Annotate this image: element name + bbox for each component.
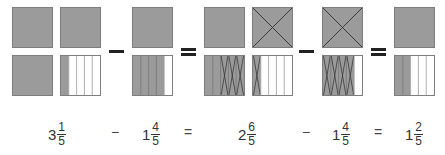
equation-minus-2: − xyxy=(302,124,310,140)
empty-fifth xyxy=(164,56,172,95)
equals-operator-1 xyxy=(181,48,196,56)
denominator: 5 xyxy=(248,135,255,147)
g1-fifths-square xyxy=(60,55,101,96)
whole-part: 1 xyxy=(405,126,413,143)
fraction: 4 5 xyxy=(341,122,350,147)
empty-fifth xyxy=(269,56,277,95)
mixed-number-3: 2 6 5 xyxy=(238,121,256,147)
cross-out-icon xyxy=(253,8,292,47)
g1-whole-square-3 xyxy=(12,55,53,96)
empty-fifth xyxy=(284,56,292,95)
g3-crossed-whole-square xyxy=(252,7,293,48)
fifths-strips xyxy=(395,56,434,95)
g1-whole-square-2 xyxy=(60,7,101,48)
numerator: 2 xyxy=(414,122,423,135)
g4-crossed-whole-square xyxy=(322,7,363,48)
fraction: 6 5 xyxy=(247,122,256,147)
g3-whole-square xyxy=(204,7,245,48)
shaded-fifth xyxy=(156,56,164,95)
empty-fifth xyxy=(77,56,85,95)
fraction: 1 5 xyxy=(57,122,66,147)
g5-whole-square xyxy=(394,7,435,48)
equation-equals-2: = xyxy=(374,124,382,140)
empty-fifth xyxy=(92,56,100,95)
fraction: 4 5 xyxy=(151,122,160,147)
shaded-fifth xyxy=(133,56,141,95)
shaded-fifth xyxy=(141,56,149,95)
denominator: 5 xyxy=(415,135,422,147)
mixed-number-5: 1 2 5 xyxy=(405,121,423,147)
g3-fifths-square-2 xyxy=(252,55,293,96)
g1-whole-square-1 xyxy=(12,7,53,48)
fifths-strips xyxy=(323,56,362,95)
empty-fifth xyxy=(69,56,77,95)
cross-out-icon xyxy=(323,8,362,47)
numerator: 6 xyxy=(247,122,256,135)
mixed-number-1: 3 1 5 xyxy=(48,121,66,147)
g2-whole-square xyxy=(132,7,173,48)
mixed-number-2: 1 4 5 xyxy=(142,121,160,147)
numerator: 4 xyxy=(341,122,350,135)
mixed-number-4: 1 4 5 xyxy=(332,121,350,147)
empty-fifth xyxy=(354,56,362,95)
g3-fifths-square-1 xyxy=(204,55,245,96)
denominator: 5 xyxy=(58,135,65,147)
numerator: 1 xyxy=(57,122,66,135)
fifths-strips xyxy=(253,56,292,95)
fifths-strips xyxy=(61,56,100,95)
shaded-fifth xyxy=(61,56,69,95)
empty-fifth xyxy=(411,56,419,95)
minus-operator-2 xyxy=(299,50,314,53)
fraction: 2 5 xyxy=(414,122,423,147)
empty-fifth xyxy=(261,56,269,95)
fifths-strips xyxy=(133,56,172,95)
whole-part: 1 xyxy=(332,126,340,143)
empty-fifth xyxy=(426,56,434,95)
denominator: 5 xyxy=(152,135,159,147)
shaded-fifth xyxy=(395,56,403,95)
equation-minus-1: − xyxy=(111,124,119,140)
g5-fifths-square xyxy=(394,55,435,96)
equation-equals-1: = xyxy=(184,124,192,140)
fifths-strips xyxy=(205,56,244,95)
numerator: 4 xyxy=(151,122,160,135)
equals-operator-2 xyxy=(371,48,386,56)
minus-operator-1 xyxy=(109,50,124,53)
whole-part: 3 xyxy=(48,126,56,143)
shaded-fifth xyxy=(403,56,411,95)
empty-fifth xyxy=(418,56,426,95)
shaded-fifth xyxy=(149,56,157,95)
shaded-fifth xyxy=(213,56,221,95)
whole-part: 2 xyxy=(238,126,246,143)
shaded-fifth xyxy=(205,56,213,95)
g4-crossed-fifths-square xyxy=(322,55,363,96)
g2-fifths-square xyxy=(132,55,173,96)
denominator: 5 xyxy=(342,135,349,147)
empty-fifth xyxy=(276,56,284,95)
empty-fifth xyxy=(84,56,92,95)
whole-part: 1 xyxy=(142,126,150,143)
